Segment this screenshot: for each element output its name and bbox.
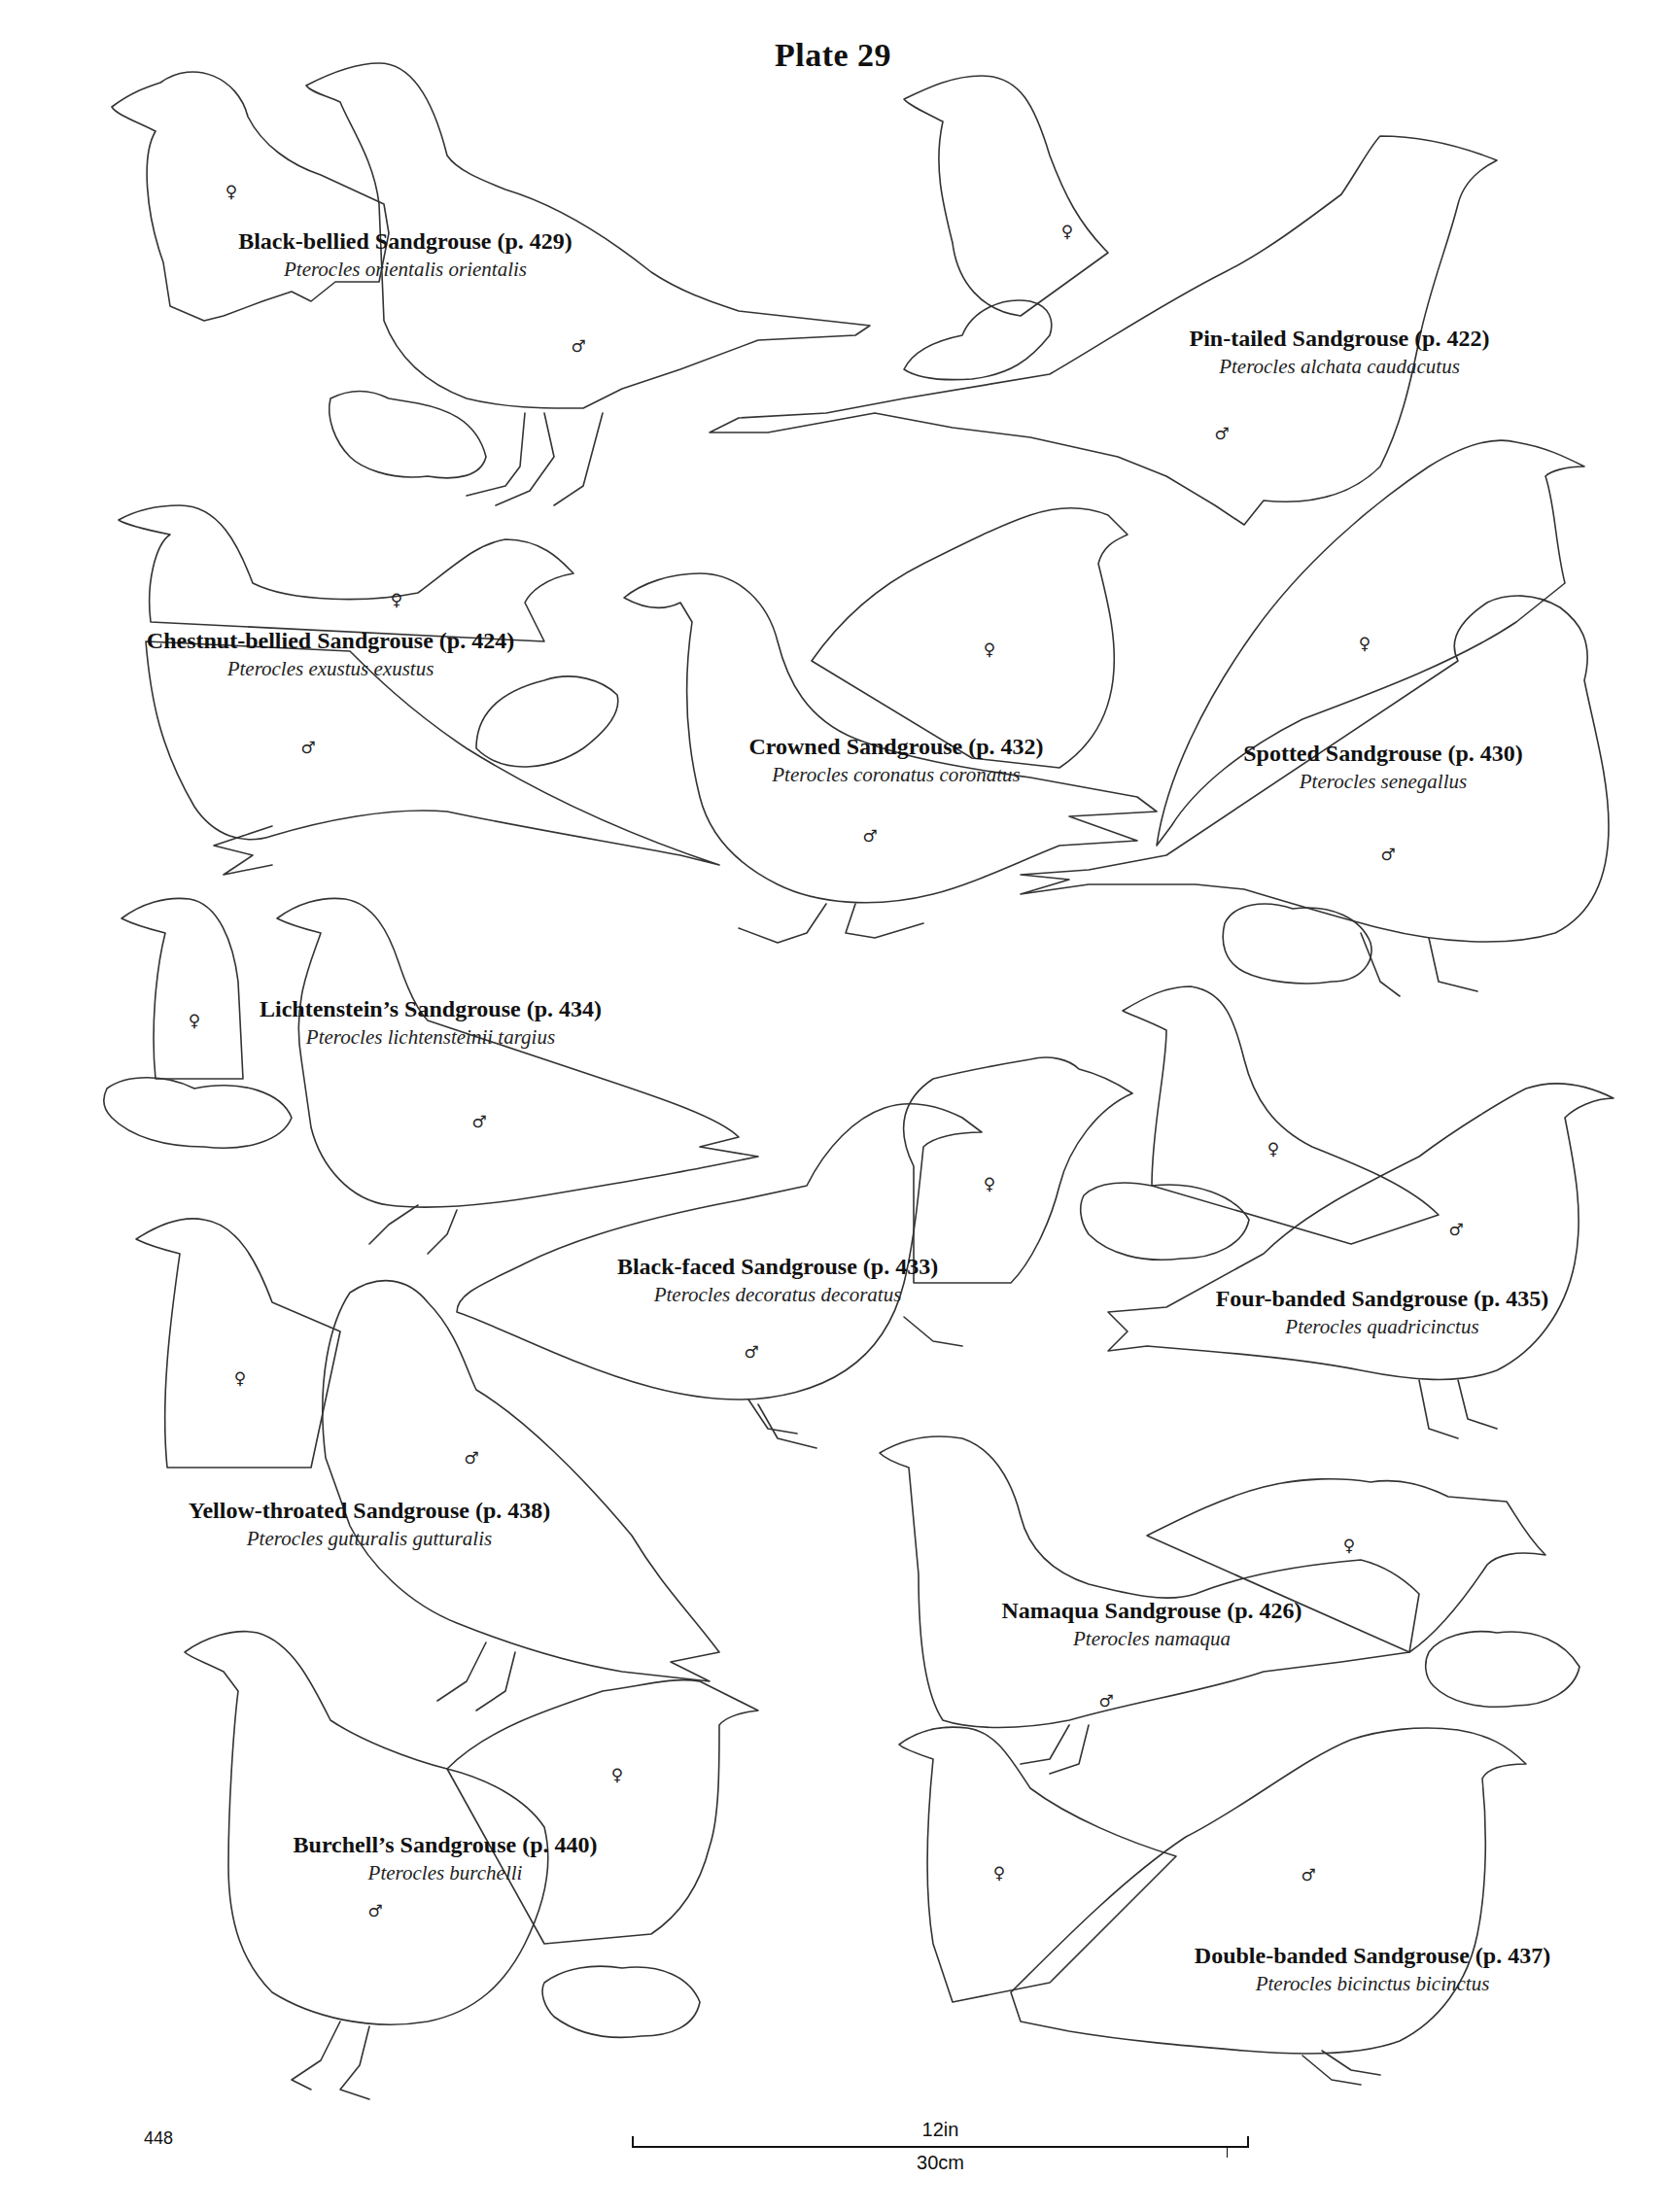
species-caption-chestnut-bellied: Chestnut-bellied Sandgrouse (p. 424) Pte… (147, 626, 514, 682)
common-name: Chestnut-bellied Sandgrouse (p. 424) (147, 626, 514, 655)
female-symbol-icon: ♀ (984, 1174, 995, 1193)
common-name: Lichtenstein’s Sandgrouse (p. 434) (260, 994, 602, 1023)
common-name: Pin-tailed Sandgrouse (p. 422) (1190, 324, 1490, 353)
male-symbol-icon: ♂ (1098, 1691, 1113, 1711)
male-symbol-icon: ♂ (1380, 845, 1395, 864)
namaqua-legs (1021, 1725, 1089, 1774)
scale-metric-label: 30cm (632, 2152, 1249, 2174)
four-banded-chick-outline (1081, 1183, 1249, 1260)
yellow-throated-female-outline (136, 1219, 340, 1468)
scientific-name: Pterocles coronatus coronatus (748, 761, 1043, 788)
scientific-name: Pterocles namaqua (1002, 1625, 1302, 1652)
yellow-throated-male-outline (323, 1281, 719, 1681)
lichtenstein-female-outline (121, 898, 243, 1079)
male-symbol-icon: ♂ (571, 336, 585, 356)
pin-tailed-chick-outline (904, 300, 1052, 380)
female-symbol-icon: ♀ (234, 1368, 246, 1388)
namaqua-male-outline (880, 1436, 1419, 1727)
common-name: Crowned Sandgrouse (p. 432) (748, 732, 1043, 761)
black-bellied-chick-outline (330, 392, 486, 478)
species-caption-black-faced: Black-faced Sandgrouse (p. 433) Pterocle… (617, 1252, 938, 1308)
scale-bar: 12in 30cm (632, 2119, 1249, 2177)
female-symbol-icon: ♀ (1061, 222, 1073, 241)
scientific-name: Pterocles gutturalis gutturalis (189, 1525, 550, 1552)
crowned-legs (739, 904, 923, 943)
lichtenstein-legs (369, 1205, 457, 1254)
species-caption-lichtenstein: Lichtenstein’s Sandgrouse (p. 434) Ptero… (260, 994, 602, 1051)
double-banded-male-outline (1011, 1728, 1526, 2054)
male-symbol-icon: ♂ (1214, 424, 1229, 443)
male-symbol-icon: ♂ (1301, 1865, 1315, 1884)
spotted-chick-outline (1223, 904, 1371, 984)
chestnut-bellied-chick-outline (476, 676, 618, 767)
species-caption-crowned: Crowned Sandgrouse (p. 432) Pterocles co… (748, 732, 1043, 788)
common-name: Four-banded Sandgrouse (p. 435) (1216, 1284, 1549, 1313)
scientific-name: Pterocles orientalis orientalis (238, 256, 573, 283)
common-name: Yellow-throated Sandgrouse (p. 438) (189, 1496, 550, 1525)
male-symbol-icon: ♂ (367, 1901, 382, 1920)
species-caption-burchell: Burchell’s Sandgrouse (p. 440) Pterocles… (294, 1830, 598, 1886)
lichtenstein-male-outline (277, 898, 758, 1207)
female-symbol-icon: ♀ (226, 182, 237, 201)
burchell-male-outline (185, 1632, 548, 2024)
chestnut-bellied-female-outline (119, 505, 573, 641)
female-symbol-icon: ♀ (1267, 1139, 1279, 1158)
black-faced-legs (748, 1317, 962, 1448)
burchell-female-outline (447, 1680, 758, 1944)
female-symbol-icon: ♀ (984, 639, 995, 659)
scale-tick-right-in (1247, 2136, 1249, 2148)
double-banded-female-outline (899, 1727, 1176, 2002)
crowned-female-outline (812, 508, 1128, 769)
female-symbol-icon: ♀ (391, 590, 402, 609)
scientific-name: Pterocles exustus exustus (147, 655, 514, 682)
common-name: Black-faced Sandgrouse (p. 433) (617, 1252, 938, 1281)
common-name: Black-bellied Sandgrouse (p. 429) (238, 226, 573, 256)
species-caption-black-bellied: Black-bellied Sandgrouse (p. 429) Pteroc… (238, 226, 573, 283)
black-bellied-female-outline (112, 72, 389, 321)
male-symbol-icon: ♂ (744, 1342, 758, 1362)
pin-tailed-female-outline (904, 76, 1108, 316)
spotted-legs (1361, 933, 1477, 996)
four-banded-female-outline (1123, 986, 1439, 1244)
species-caption-pin-tailed: Pin-tailed Sandgrouse (p. 422) Pterocles… (1190, 324, 1490, 380)
female-symbol-icon: ♀ (189, 1011, 200, 1030)
double-banded-legs (1302, 2051, 1380, 2085)
male-symbol-icon: ♂ (464, 1448, 478, 1468)
namaqua-chick-outline (1426, 1632, 1579, 1708)
species-caption-spotted: Spotted Sandgrouse (p. 430) Pterocles se… (1243, 739, 1523, 795)
male-symbol-icon: ♂ (862, 826, 877, 846)
species-caption-yellow-throated: Yellow-throated Sandgrouse (p. 438) Pter… (189, 1496, 550, 1552)
black-faced-female-outline (904, 1057, 1132, 1283)
four-banded-legs (1419, 1380, 1497, 1438)
scientific-name: Pterocles bicinctus bicinctus (1195, 1970, 1550, 1997)
common-name: Spotted Sandgrouse (p. 430) (1243, 739, 1523, 768)
female-symbol-icon: ♀ (1359, 634, 1371, 653)
scale-imperial-label: 12in (632, 2119, 1249, 2141)
scientific-name: Pterocles decoratus decoratus (617, 1281, 938, 1308)
scientific-name: Pterocles quadricinctus (1216, 1313, 1549, 1340)
male-symbol-icon: ♂ (471, 1112, 486, 1131)
common-name: Double-banded Sandgrouse (p. 437) (1195, 1941, 1550, 1970)
species-caption-four-banded: Four-banded Sandgrouse (p. 435) Pterocle… (1216, 1284, 1549, 1340)
burchell-chick-outline (542, 1966, 700, 2037)
scientific-name: Pterocles senegallus (1243, 768, 1523, 795)
male-symbol-icon: ♂ (300, 738, 315, 757)
scientific-name: Pterocles lichtensteinii targius (260, 1023, 602, 1051)
common-name: Burchell’s Sandgrouse (p. 440) (294, 1830, 598, 1859)
species-caption-namaqua: Namaqua Sandgrouse (p. 426) Pterocles na… (1002, 1596, 1302, 1652)
burchell-legs (292, 2022, 369, 2099)
common-name: Namaqua Sandgrouse (p. 426) (1002, 1596, 1302, 1625)
page-number: 448 (144, 2128, 173, 2149)
female-symbol-icon: ♀ (1343, 1536, 1355, 1555)
scientific-name: Pterocles alchata caudacutus (1190, 353, 1490, 380)
female-symbol-icon: ♀ (993, 1863, 1005, 1883)
black-bellied-male-legs (467, 413, 603, 505)
female-symbol-icon: ♀ (611, 1765, 623, 1784)
species-caption-double-banded: Double-banded Sandgrouse (p. 437) Pteroc… (1195, 1941, 1550, 1997)
scale-line (632, 2146, 1249, 2148)
yellow-throated-legs (437, 1642, 515, 1711)
male-symbol-icon: ♂ (1448, 1220, 1463, 1239)
scientific-name: Pterocles burchelli (294, 1859, 598, 1886)
lichtenstein-chick-outline (104, 1078, 292, 1149)
